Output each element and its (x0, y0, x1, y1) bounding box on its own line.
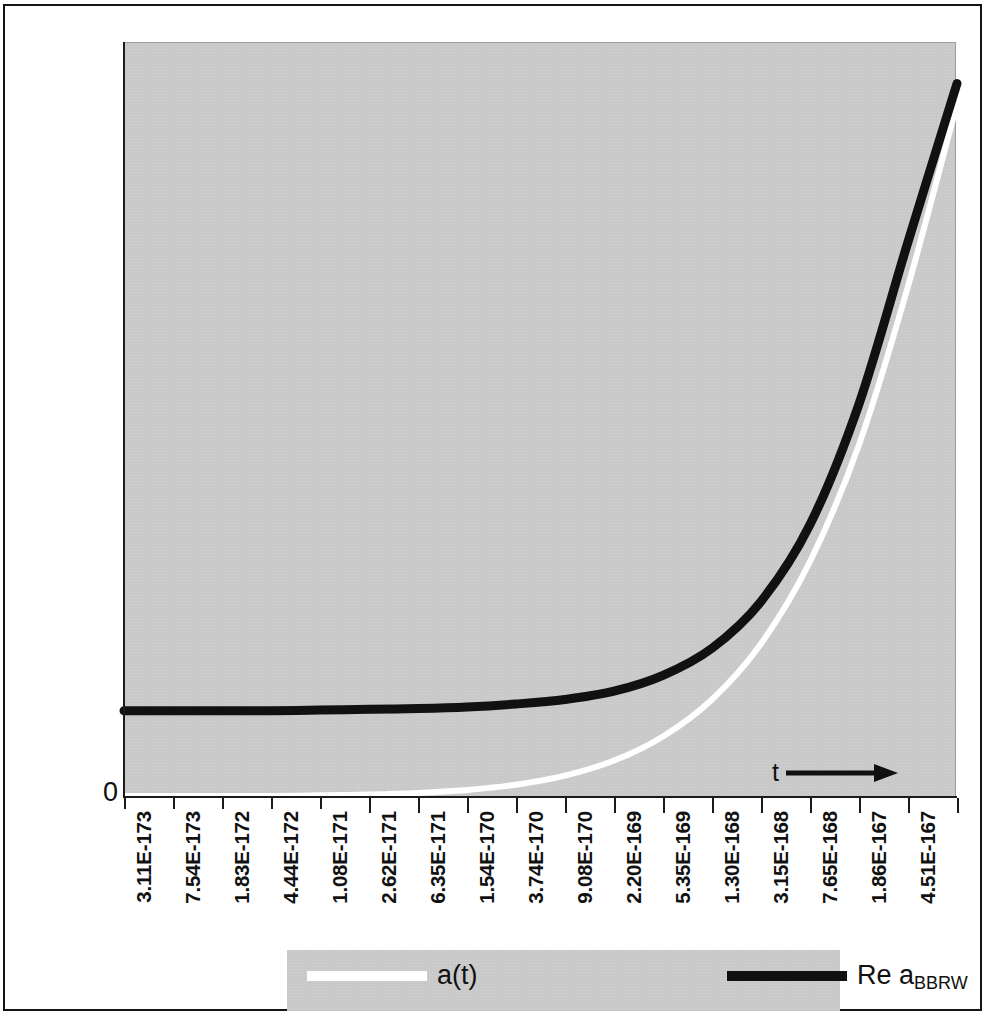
time-axis-label: t (772, 760, 779, 785)
x-axis-tick-label: 1.83E-172 (230, 811, 254, 904)
right-arrow-icon (786, 762, 898, 784)
x-axis-tick-label: 7.54E-173 (181, 811, 205, 904)
x-axis-tick (565, 798, 567, 813)
legend-entry-re-a-bbrw: Re aBBRW (727, 962, 968, 989)
x-axis-tick (859, 798, 861, 813)
x-axis-tick (124, 798, 126, 809)
x-axis-tick-label: 4.44E-172 (279, 811, 303, 904)
black-line-swatch (727, 971, 847, 981)
x-axis-tick-label: 1.86E-167 (867, 811, 891, 904)
x-axis-tick (418, 798, 420, 813)
x-axis-tick (320, 798, 322, 809)
x-axis-tick-label: 3.15E-168 (769, 811, 793, 904)
x-axis-tick-label: 1.08E-171 (328, 811, 352, 904)
x-axis-tick-label: 2.62E-171 (377, 811, 401, 904)
legend-label-re-a-bbrw-main: Re a (857, 960, 914, 990)
white-line-swatch (307, 971, 427, 981)
x-axis-tick-label: 5.35E-169 (671, 811, 695, 904)
legend-label-re-a-bbrw-subscript: BBRW (914, 973, 968, 993)
legend-entry-a-t: a(t) (307, 962, 478, 989)
x-axis-tick (467, 798, 469, 813)
x-axis-tick-label: 2.20E-169 (622, 811, 646, 904)
x-axis-tick (761, 798, 763, 813)
x-axis-tick (908, 798, 910, 813)
y-axis-line (123, 42, 125, 798)
x-axis-tick (614, 798, 616, 813)
x-axis-tick (369, 798, 371, 813)
x-axis-tick-label: 4.51E-167 (916, 811, 940, 904)
y-axis-zero-label: 0 (84, 779, 118, 806)
x-axis-tick (516, 798, 518, 813)
chart-curves (124, 42, 956, 798)
x-axis-tick (663, 798, 665, 813)
x-axis-tick-label: 1.30E-168 (720, 811, 744, 904)
legend-label-a-t: a(t) (437, 962, 478, 989)
x-axis-tick-label: 3.74E-170 (524, 811, 548, 904)
x-axis-tick-label: 7.65E-168 (818, 811, 842, 904)
x-axis-tick (222, 798, 224, 809)
x-axis-tick-label: 9.08E-170 (573, 811, 597, 904)
x-axis-tick (271, 798, 273, 809)
series-line-re-a (124, 83, 957, 710)
x-axis-tick-label: 6.35E-171 (426, 811, 450, 904)
chart-legend: a(t) Re aBBRW (287, 950, 840, 1011)
x-axis-tick-label: 1.54E-170 (475, 811, 499, 904)
x-axis-line (124, 796, 957, 798)
chart-figure: 0 3.11E-1737.54E-1731.83E-1724.44E-1721.… (0, 0, 988, 1026)
figure-page: 0 3.11E-1737.54E-1731.83E-1724.44E-1721.… (0, 0, 988, 1026)
x-axis-tick (810, 798, 812, 813)
legend-label-re-a-bbrw: Re aBBRW (857, 962, 968, 989)
series-group (124, 83, 957, 796)
x-axis-tick-label: 3.11E-173 (132, 811, 156, 903)
x-axis-tick (957, 798, 959, 813)
time-axis-annotation: t (772, 760, 898, 785)
series-line-a-t (124, 104, 957, 796)
x-axis-tick (173, 798, 175, 809)
x-axis-tick (712, 798, 714, 813)
